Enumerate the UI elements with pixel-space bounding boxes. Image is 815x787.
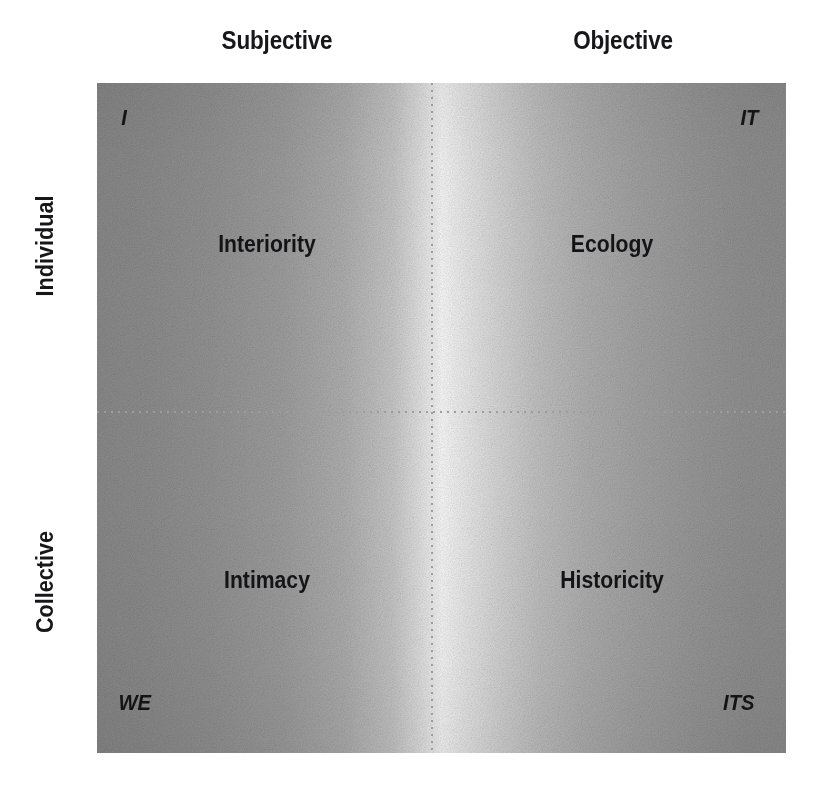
- quadrant-label-ecology: Ecology: [492, 231, 731, 258]
- vertical-divider: [431, 83, 433, 753]
- quadrant-pronoun-it: IT: [722, 105, 759, 131]
- row-header-collective: Collective: [31, 447, 59, 717]
- column-header-subjective: Subjective: [178, 26, 376, 55]
- quadrant-pronoun-its: ITS: [699, 690, 754, 716]
- horizontal-divider: [97, 411, 786, 413]
- column-header-objective: Objective: [524, 26, 722, 55]
- quadrant-pronoun-i: I: [121, 105, 127, 131]
- row-header-individual: Individual: [31, 111, 59, 381]
- quadrant-label-interiority: Interiority: [147, 231, 386, 258]
- quadrant-matrix: Interiority Ecology Intimacy Historicity…: [97, 83, 786, 753]
- quadrant-label-historicity: Historicity: [492, 567, 731, 594]
- paper-grain-texture: [97, 83, 786, 753]
- diagram-canvas: Subjective Objective Individual Collecti…: [0, 0, 815, 787]
- quadrant-label-intimacy: Intimacy: [147, 567, 386, 594]
- quadrant-pronoun-we: WE: [118, 690, 151, 716]
